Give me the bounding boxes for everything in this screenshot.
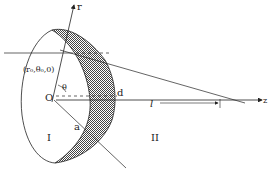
d-label: d xyxy=(117,87,124,98)
a-label: a xyxy=(74,121,80,132)
point-label: (r₀,θ₀,0) xyxy=(23,65,54,74)
region-1-label: I xyxy=(47,132,51,143)
origin-label: O xyxy=(45,92,53,103)
z-axis-label: z xyxy=(263,96,267,105)
region-2-label: II xyxy=(151,132,159,143)
l-label: l xyxy=(150,98,153,109)
theta-label: θ xyxy=(62,83,67,92)
r-axis-label: r xyxy=(77,1,82,12)
lens-geometry-diagram: r z O θ (r₀,θ₀,0) d a l I II xyxy=(0,0,270,175)
